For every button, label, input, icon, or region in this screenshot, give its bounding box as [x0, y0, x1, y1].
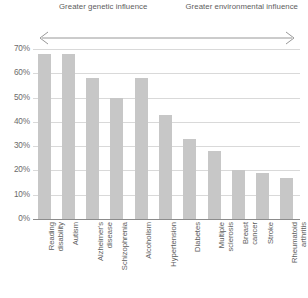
- category-label: Alcoholism: [145, 222, 154, 298]
- y-axis-tick-label: 30%: [4, 141, 30, 150]
- bar: [86, 78, 99, 219]
- bar: [62, 54, 75, 219]
- bar: [159, 115, 172, 219]
- x-axis-category-labels: Reading disabilityAutismAlzheimer's dise…: [33, 222, 300, 298]
- bar: [232, 170, 245, 219]
- category-label: Reading disability: [48, 222, 65, 298]
- bar: [208, 151, 221, 219]
- category-label: Rheumatoid arthritis: [291, 222, 308, 298]
- bar: [135, 78, 148, 219]
- x-axis-line: [33, 219, 300, 220]
- y-axis-tick-label: 60%: [4, 68, 30, 77]
- category-label: Diabetes: [194, 222, 203, 298]
- bar: [183, 139, 196, 219]
- bar: [280, 178, 293, 219]
- bar-series: [33, 49, 300, 219]
- y-axis-tick-label: 20%: [4, 165, 30, 174]
- category-label: Breast cancer: [242, 222, 259, 298]
- category-label: Hypertension: [170, 222, 179, 298]
- y-axis-tick-label: 0%: [4, 214, 30, 223]
- bar: [38, 54, 51, 219]
- y-axis-tick-label: 70%: [4, 44, 30, 53]
- category-label: Stroke: [267, 222, 276, 298]
- y-axis-tick-label: 40%: [4, 117, 30, 126]
- y-axis-tick-label: 10%: [4, 190, 30, 199]
- bar: [110, 98, 123, 219]
- category-label: Alzheimer's disease: [97, 222, 114, 298]
- category-label: Autism: [72, 222, 81, 298]
- category-label: Schizophrenia: [121, 222, 130, 298]
- y-axis-tick-label: 50%: [4, 93, 30, 102]
- category-label: Multiple sclerosis: [218, 222, 235, 298]
- bar: [256, 173, 269, 219]
- heritability-bar-chart: Greater genetic influence Greater enviro…: [0, 0, 308, 298]
